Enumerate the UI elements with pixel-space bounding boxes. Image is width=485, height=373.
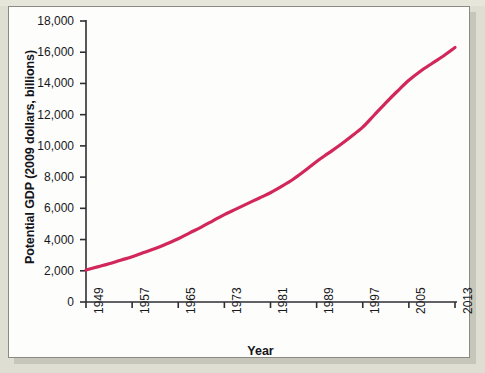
data-line-potential-gdp bbox=[86, 48, 455, 270]
data-series-group bbox=[86, 48, 455, 270]
plot-area bbox=[0, 0, 485, 373]
chart-figure: Potential GDP (2009 dollars, billions) Y… bbox=[0, 0, 485, 373]
axes-group bbox=[80, 20, 457, 308]
